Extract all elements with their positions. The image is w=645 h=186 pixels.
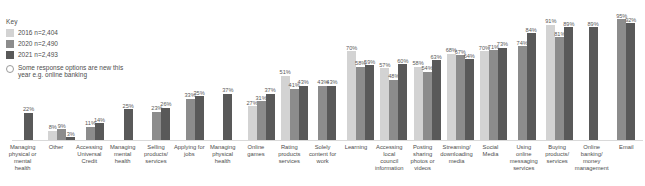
bar-item[interactable]: 58% bbox=[414, 67, 423, 141]
bar-group: 43%43% bbox=[311, 0, 344, 141]
bar-group: 22% bbox=[12, 0, 45, 141]
bar[interactable] bbox=[498, 48, 507, 141]
axis-baseline bbox=[12, 140, 643, 141]
bar[interactable] bbox=[318, 86, 327, 141]
category-label: Applying for jobs bbox=[173, 144, 206, 186]
bar[interactable] bbox=[257, 101, 266, 141]
bar-item[interactable]: 67% bbox=[456, 55, 465, 141]
bar-item[interactable]: 48% bbox=[389, 80, 398, 141]
bar[interactable] bbox=[423, 72, 432, 141]
bar-item[interactable]: 37% bbox=[223, 94, 232, 141]
bar-item[interactable]: 43% bbox=[327, 86, 336, 141]
bar-item[interactable]: 25% bbox=[124, 109, 133, 141]
bar[interactable] bbox=[24, 113, 33, 141]
bar[interactable] bbox=[223, 94, 232, 141]
bar-item[interactable]: 41% bbox=[290, 89, 299, 141]
bars: 91%81%89% bbox=[546, 13, 573, 141]
bar-item[interactable]: 91% bbox=[546, 25, 555, 141]
bar-value-label: 84% bbox=[526, 27, 537, 33]
bar-group: 70%58%59% bbox=[344, 0, 377, 141]
bar-item[interactable]: 35% bbox=[195, 96, 204, 141]
category-label-list: Managing physical or mental healthOtherA… bbox=[6, 144, 643, 186]
bar[interactable] bbox=[365, 65, 374, 141]
bars: 70%58%59% bbox=[347, 13, 374, 141]
bar[interactable] bbox=[432, 60, 441, 141]
bar[interactable] bbox=[356, 67, 365, 141]
bar-item[interactable]: 58% bbox=[356, 67, 365, 141]
bar[interactable] bbox=[465, 59, 474, 141]
bar-item[interactable]: 68% bbox=[447, 54, 456, 141]
bar-item[interactable]: 84% bbox=[527, 33, 536, 141]
bar[interactable] bbox=[186, 99, 195, 141]
bar-item[interactable]: 60% bbox=[398, 64, 407, 141]
category-label: Other bbox=[39, 144, 72, 186]
bar-item[interactable]: 23% bbox=[152, 112, 161, 141]
bar-item[interactable]: 22% bbox=[24, 113, 33, 141]
category-label: Accessing Universal Credit bbox=[73, 144, 106, 186]
bar-item[interactable]: 95% bbox=[617, 19, 626, 141]
bar-item[interactable]: 43% bbox=[318, 86, 327, 141]
bar-item[interactable]: 43% bbox=[299, 86, 308, 141]
bar[interactable] bbox=[389, 80, 398, 141]
bar-value-label: 60% bbox=[397, 58, 408, 64]
bar[interactable] bbox=[617, 19, 626, 141]
bar[interactable] bbox=[447, 54, 456, 141]
bar-item[interactable]: 89% bbox=[564, 27, 573, 141]
bar[interactable] bbox=[414, 67, 423, 141]
bar-value-label: 37% bbox=[264, 87, 275, 93]
bar-item[interactable]: 26% bbox=[161, 108, 170, 141]
bar-item[interactable]: 70% bbox=[480, 51, 489, 141]
bar-item[interactable]: 63% bbox=[432, 60, 441, 141]
bar-item[interactable]: 54% bbox=[423, 72, 432, 141]
category-label: Rating products services bbox=[273, 144, 306, 186]
bar[interactable] bbox=[124, 109, 133, 141]
bar-item[interactable]: 81% bbox=[555, 37, 564, 141]
bar[interactable] bbox=[95, 123, 104, 141]
bar-item[interactable]: 11% bbox=[86, 127, 95, 141]
bar-item[interactable]: 59% bbox=[365, 65, 374, 141]
bar[interactable] bbox=[564, 27, 573, 141]
bar-item[interactable]: 92% bbox=[626, 23, 635, 141]
bar[interactable] bbox=[480, 51, 489, 141]
bar[interactable] bbox=[527, 33, 536, 141]
bar-group: 23%26% bbox=[145, 0, 178, 141]
bar[interactable] bbox=[626, 23, 635, 141]
bars: 25% bbox=[124, 13, 133, 141]
bar-value-label: 92% bbox=[625, 17, 636, 23]
bar[interactable] bbox=[489, 50, 498, 141]
bar-item[interactable]: 89% bbox=[589, 27, 598, 141]
bar[interactable] bbox=[327, 86, 336, 141]
bar[interactable] bbox=[248, 106, 257, 141]
category-label: Streaming/ downloading media bbox=[439, 144, 474, 186]
bar-item[interactable]: 27% bbox=[248, 106, 257, 141]
bar-item[interactable]: 74% bbox=[518, 46, 527, 141]
bar[interactable] bbox=[518, 46, 527, 141]
bar[interactable] bbox=[589, 27, 598, 141]
bar-value-label: 43% bbox=[298, 79, 309, 85]
bar[interactable] bbox=[456, 55, 465, 141]
bar[interactable] bbox=[195, 96, 204, 141]
bar-item[interactable]: 33% bbox=[186, 99, 195, 141]
bar-item[interactable]: 71% bbox=[489, 50, 498, 141]
bar[interactable] bbox=[86, 127, 95, 141]
category-label: Online games bbox=[239, 144, 272, 186]
bars: 23%26% bbox=[152, 13, 170, 141]
bar-item[interactable]: 31% bbox=[257, 101, 266, 141]
bar-value-label: 63% bbox=[430, 54, 441, 60]
bar-group: 95%92% bbox=[610, 0, 643, 141]
bar-item[interactable]: 14% bbox=[95, 123, 104, 141]
bar[interactable] bbox=[546, 25, 555, 141]
bar[interactable] bbox=[299, 86, 308, 141]
bar[interactable] bbox=[290, 89, 299, 141]
bar[interactable] bbox=[398, 64, 407, 141]
bar-item[interactable]: 73% bbox=[498, 48, 507, 141]
bar[interactable] bbox=[152, 112, 161, 141]
bar-item[interactable]: 37% bbox=[266, 94, 275, 141]
bar-item[interactable]: 64% bbox=[465, 59, 474, 141]
bar[interactable] bbox=[266, 94, 275, 141]
bar-group: 74%84% bbox=[510, 0, 543, 141]
bar-value-label: 43% bbox=[326, 79, 337, 85]
bar[interactable] bbox=[161, 108, 170, 141]
bar[interactable] bbox=[555, 37, 564, 141]
bars: 89% bbox=[589, 13, 598, 141]
